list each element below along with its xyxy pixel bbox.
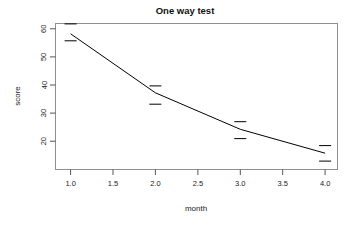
one-way-test-line-chart: One way test 20 30 40 50 60 — [0, 0, 356, 227]
x-tick-label: 1.0 — [65, 179, 75, 188]
y-axis-label: score — [13, 86, 22, 106]
y-tick-label: 40 — [40, 81, 49, 89]
y-tick-label: 50 — [40, 53, 49, 61]
x-tick-label: 3.5 — [277, 179, 287, 188]
y-tick-label: 30 — [40, 109, 49, 117]
x-tick-label: 1.5 — [108, 179, 118, 188]
x-tick-label: 3.0 — [235, 179, 245, 188]
chart-title: One way test — [156, 5, 215, 16]
x-axis-label: month — [185, 204, 207, 213]
y-tick-label: 60 — [40, 25, 49, 33]
chart-container: One way test 20 30 40 50 60 — [0, 0, 356, 227]
x-tick-label: 2.0 — [150, 179, 160, 188]
x-tick-label: 4.0 — [320, 179, 330, 188]
y-tick-label: 20 — [40, 137, 49, 145]
x-tick-label: 2.5 — [193, 179, 203, 188]
